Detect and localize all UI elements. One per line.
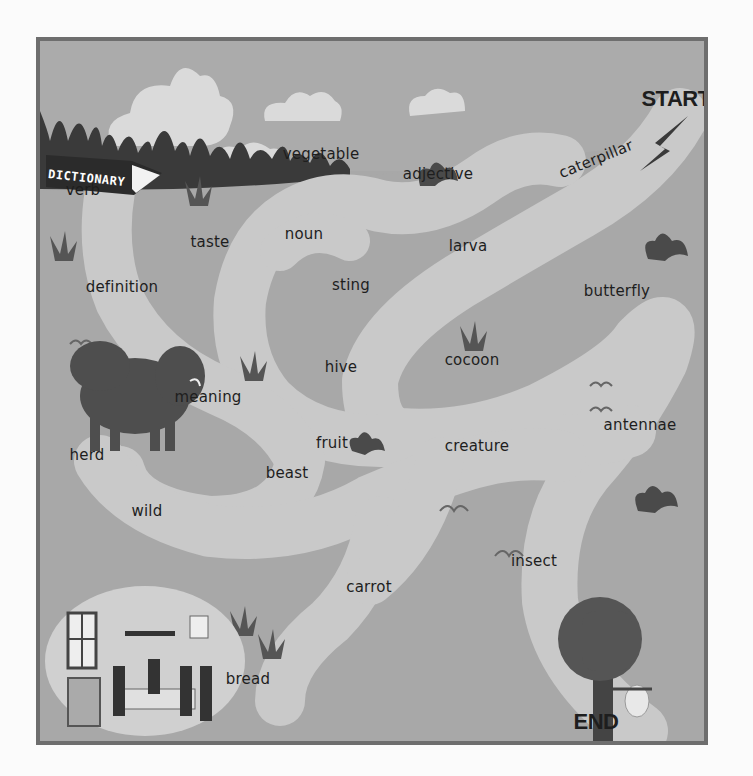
maze-word-cocoon: cocoon xyxy=(445,351,500,369)
maze-word-taste: taste xyxy=(191,233,230,251)
maze-word-larva: larva xyxy=(449,237,488,255)
maze-word-hive: hive xyxy=(325,358,358,376)
maze-word-antennae: antennae xyxy=(604,416,677,434)
start-label: START xyxy=(641,86,708,112)
maze-word-vegetable: vegetable xyxy=(283,145,360,163)
maze-word-herd: herd xyxy=(70,446,105,464)
maze-word-beast: beast xyxy=(266,464,309,482)
maze-word-verb: verb xyxy=(66,181,101,199)
kitchen-scene xyxy=(45,586,245,736)
maze-word-butterfly: butterfly xyxy=(584,282,650,300)
end-label: END xyxy=(574,709,619,735)
maze-word-carrot: carrot xyxy=(346,578,391,596)
maze-word-fruit: fruit xyxy=(316,434,348,452)
maze-word-meaning: meaning xyxy=(174,388,241,406)
maze-board: DICTIONARY START END caterpillarvegetabl… xyxy=(36,37,708,745)
maze-word-bread: bread xyxy=(226,670,270,688)
maze-word-insect: insect xyxy=(511,552,557,570)
maze-word-adjective: adjective xyxy=(403,165,473,183)
maze-word-wild: wild xyxy=(132,502,163,520)
maze-word-sting: sting xyxy=(332,276,370,294)
maze-word-noun: noun xyxy=(285,225,324,243)
maze-word-definition: definition xyxy=(86,278,159,296)
maze-word-creature: creature xyxy=(445,437,510,455)
